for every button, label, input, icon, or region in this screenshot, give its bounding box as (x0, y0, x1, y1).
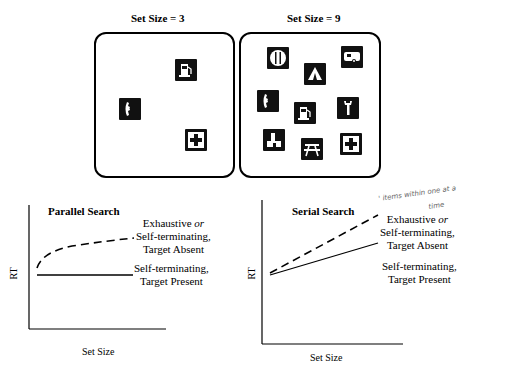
serial-solid-label: Self-terminating, Target Present (382, 260, 457, 286)
first-aid-cross-icon (340, 133, 362, 155)
panel-title-set-size-3: Set Size = 3 (131, 12, 185, 24)
panel-title-set-size-9: Set Size = 9 (287, 12, 341, 24)
x-axis-label: Set Size (82, 346, 115, 357)
parallel-dashed-label: Exhaustive or Self-terminating, Target A… (136, 217, 211, 256)
display-panel-set-size-3 (94, 32, 235, 178)
tent-camping-icon (304, 63, 326, 85)
trailer-rv-icon (341, 46, 363, 68)
restaurant-fork-knife-icon (267, 47, 289, 69)
gas-pump-icon (175, 59, 197, 81)
serial-dashed-label: Exhaustive or Self-terminating, Target A… (380, 213, 455, 252)
wrench-icon (337, 97, 359, 119)
gas-pump-icon (294, 102, 316, 124)
picnic-table-icon (301, 138, 323, 160)
lodging-house-icon (263, 129, 285, 151)
serial-search-plot (240, 195, 510, 355)
telephone-icon (257, 90, 279, 112)
parallel-solid-label: Self-terminating, Target Present (134, 262, 209, 288)
dashed-line-target-absent (37, 238, 134, 268)
solid-line-target-present (270, 243, 378, 275)
dashed-line-target-absent (270, 215, 378, 273)
first-aid-cross-icon (185, 129, 207, 151)
display-panel-set-size-9 (239, 32, 381, 178)
telephone-icon (119, 98, 141, 120)
